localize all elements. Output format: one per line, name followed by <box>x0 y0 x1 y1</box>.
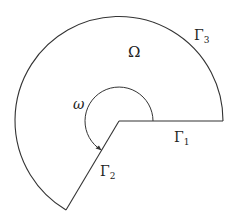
gamma-symbol: Γ <box>174 129 184 145</box>
gamma1-label: Γ1 <box>174 130 189 147</box>
gamma2-label: Γ2 <box>100 164 115 181</box>
omega-domain-label: Ω <box>128 45 140 60</box>
gamma2-subscript: 2 <box>110 171 116 181</box>
omega-angle-arc <box>85 87 153 150</box>
gamma1-subscript: 1 <box>184 137 190 147</box>
angle-omega-label: ω <box>73 97 84 111</box>
gamma-symbol: Γ <box>100 163 110 179</box>
gamma3-subscript: 3 <box>204 35 210 45</box>
gamma3-label: Γ3 <box>194 28 209 45</box>
gamma-symbol: Γ <box>194 27 204 43</box>
gamma3-arc <box>15 17 223 210</box>
